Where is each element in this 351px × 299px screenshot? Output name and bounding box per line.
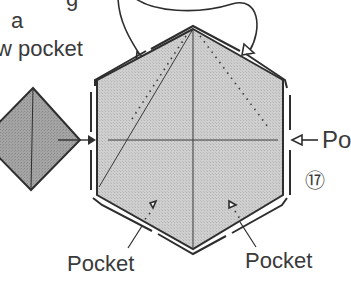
- pocket-label-bottom-left: Pocket: [67, 253, 134, 275]
- arrowhead-icon: [88, 135, 96, 145]
- pocket-label-right: Po: [322, 128, 351, 152]
- insert-arrow-right: [292, 135, 318, 145]
- arrowhead-icon: [292, 135, 302, 145]
- instruction-text-partial: g: [66, 0, 78, 10]
- pocket-label-bottom-right: Pocket: [245, 250, 312, 272]
- instruction-text-line-pocket: w pocket: [0, 38, 83, 60]
- diamond: [0, 88, 80, 190]
- instruction-text-line-a: a: [11, 10, 23, 32]
- step-number: ⑰: [305, 171, 325, 191]
